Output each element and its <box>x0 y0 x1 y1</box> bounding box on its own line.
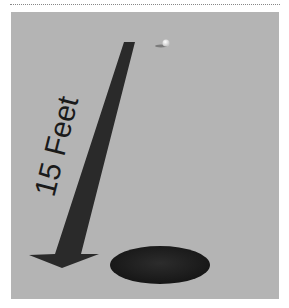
putt-diagram: 15 Feet <box>0 0 289 308</box>
golf-ball-icon <box>163 40 170 47</box>
hole-icon <box>110 246 210 284</box>
distance-label: 15 Feet <box>28 92 85 199</box>
